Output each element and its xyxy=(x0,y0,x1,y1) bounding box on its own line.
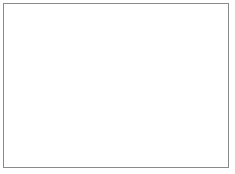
figure-frame-border xyxy=(3,3,229,168)
figure-root xyxy=(0,0,235,174)
